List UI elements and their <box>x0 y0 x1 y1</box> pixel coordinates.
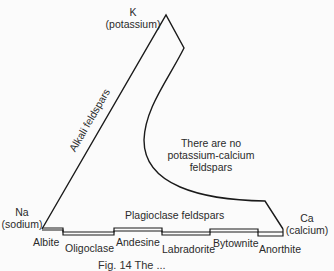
series-albite: Albite <box>33 236 59 248</box>
figure-caption: Fig. 14 The ... <box>98 259 166 271</box>
vertex-ca-symbol: Ca <box>283 212 331 224</box>
series-anorthite: Anorthite <box>259 243 301 255</box>
note-line-3: feldspars <box>166 161 256 173</box>
vertex-na-symbol: Na <box>0 206 44 218</box>
vertex-k-symbol: K <box>103 6 163 18</box>
note-line-1: There are no <box>166 137 256 149</box>
vertex-na-name: (sodium) <box>0 218 44 230</box>
series-bytownite: Bytownite <box>213 237 259 249</box>
series-labradorite: Labradorite <box>162 243 215 255</box>
series-oligoclase: Oligoclase <box>65 242 114 254</box>
note-line-2: potassium-calcium <box>166 149 256 161</box>
vertex-na-label: Na (sodium) <box>0 206 44 230</box>
series-andesine: Andesine <box>116 236 160 248</box>
plagioclase-step-bar <box>42 228 283 236</box>
vertex-k-label: K (potassium) <box>103 6 163 30</box>
vertex-ca-label: Ca (calcium) <box>283 212 331 236</box>
feldspar-field-outline <box>42 15 283 229</box>
no-k-ca-feldspars-note: There are no potassium-calcium feldspars <box>166 137 256 173</box>
plagioclase-feldspars-label: Plagioclase feldspars <box>125 209 224 221</box>
vertex-k-name: (potassium) <box>103 18 163 30</box>
vertex-ca-name: (calcium) <box>283 224 331 236</box>
